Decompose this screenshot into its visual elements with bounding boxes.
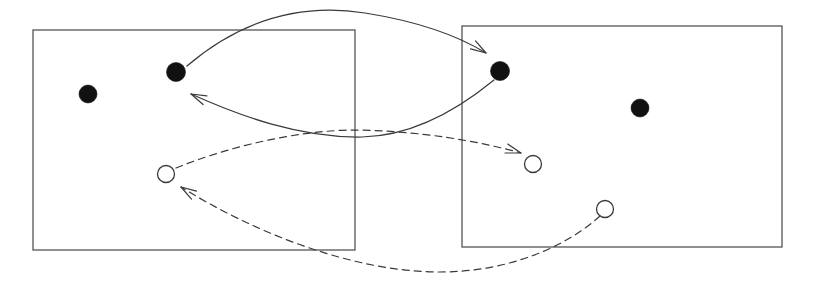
nodes-layer <box>79 62 649 218</box>
diagram-svg <box>0 0 814 292</box>
frame-rectangle <box>462 26 782 247</box>
open-point-marker <box>597 201 614 218</box>
edges-layer <box>176 10 600 272</box>
filled-point-marker <box>631 99 649 117</box>
dashed-correspondence-arc <box>176 130 521 168</box>
arrowhead-icon <box>181 187 196 199</box>
frame-rectangle <box>33 30 355 250</box>
arrowheads-layer <box>181 41 521 199</box>
filled-point-marker <box>167 63 186 82</box>
solid-correspondence-arc <box>191 80 494 137</box>
open-point-marker <box>525 156 542 173</box>
figure-canvas <box>0 0 814 292</box>
filled-point-marker <box>491 62 510 81</box>
arrowhead-icon <box>505 144 521 153</box>
frames-layer <box>33 26 782 250</box>
arrowhead-icon <box>471 41 486 53</box>
arrowhead-icon <box>191 94 207 104</box>
dashed-correspondence-arc <box>181 187 600 272</box>
solid-correspondence-arc <box>187 10 486 66</box>
open-point-marker <box>158 166 175 183</box>
filled-point-marker <box>79 85 97 103</box>
